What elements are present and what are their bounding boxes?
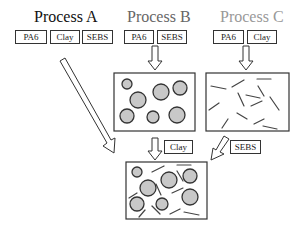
- add-clay-label: Clay: [164, 140, 193, 154]
- arrow-c-down-icon: [239, 46, 253, 70]
- arrow-b-down-icon: [148, 46, 162, 70]
- arrow-c-to-final-icon: [211, 136, 229, 160]
- morphology-box-final: [126, 162, 207, 219]
- add-sebs-label: SEBS: [230, 140, 261, 154]
- morphology-box-b: [114, 73, 195, 131]
- diagram-graphics: [0, 0, 300, 232]
- morphology-box-c: [206, 73, 289, 131]
- arrow-a-diagonal-icon: [60, 58, 115, 153]
- arrow-b-to-final-icon: [148, 138, 162, 160]
